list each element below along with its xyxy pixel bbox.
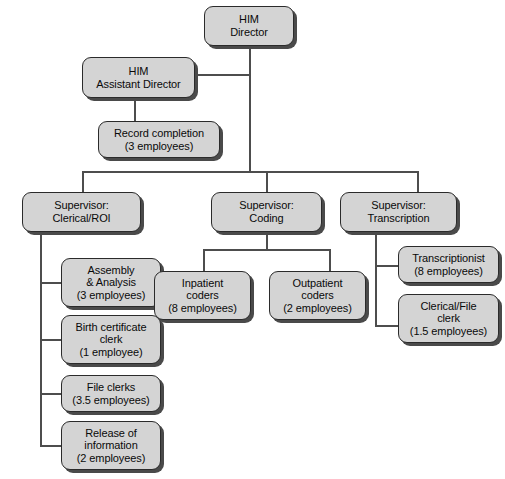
node-birth-certificate-clerk[interactable]: Birth certificate clerk (1 employee)	[61, 315, 161, 364]
connector-assistant-to-record	[134, 98, 136, 122]
connector-coding-bus	[203, 249, 330, 251]
node-label: Inpatient coders (8 employees)	[158, 277, 247, 315]
node-label: Supervisor: Coding	[215, 199, 318, 224]
node-supervisor-coding[interactable]: Supervisor: Coding	[211, 192, 322, 232]
connector-clerical-stub-release	[40, 445, 62, 447]
connector-clerical-stub-assembly	[40, 282, 62, 284]
connector-bus-to-clerical	[82, 171, 84, 193]
connector-clerical-stub-file	[40, 393, 62, 395]
node-inpatient-coders[interactable]: Inpatient coders (8 employees)	[154, 271, 251, 320]
node-record-completion[interactable]: Record completion (3 employees)	[98, 121, 220, 158]
node-label: Release of information (2 employees)	[65, 427, 157, 465]
node-supervisor-clerical-roi[interactable]: Supervisor: Clerical/ROI	[22, 192, 141, 232]
connector-coding-trunk	[266, 231, 268, 249]
connector-supervisor-bus	[82, 171, 418, 173]
connector-director-to-assistant	[196, 74, 250, 76]
org-chart: HIM Director HIM Assistant Director Reco…	[0, 0, 505, 479]
node-label: Supervisor: Clerical/ROI	[26, 199, 137, 224]
node-him-assistant-director[interactable]: HIM Assistant Director	[82, 57, 195, 98]
connector-transcription-stub-clerical	[375, 325, 399, 327]
connector-coding-to-inpatient	[203, 249, 205, 271]
connector-director-trunk	[249, 45, 251, 171]
connector-transcription-stub-transcriptionist	[375, 265, 399, 267]
connector-clerical-stub-birth	[40, 339, 62, 341]
node-label: Birth certificate clerk (1 employee)	[65, 321, 157, 359]
node-clerical-file-clerk[interactable]: Clerical/File clerk (1.5 employees)	[398, 294, 499, 343]
node-label: Record completion (3 employees)	[102, 127, 216, 152]
node-label: File clerks (3.5 employees)	[65, 381, 157, 406]
connector-transcription-trunk	[375, 231, 377, 326]
connector-bus-to-transcription	[417, 171, 419, 193]
node-label: Clerical/File clerk (1.5 employees)	[402, 300, 495, 338]
node-label: HIM Director	[208, 13, 290, 38]
node-transcriptionist[interactable]: Transcriptionist (8 employees)	[398, 246, 499, 283]
node-supervisor-transcription[interactable]: Supervisor: Transcription	[340, 192, 457, 232]
node-him-director[interactable]: HIM Director	[204, 6, 294, 46]
connector-coding-to-outpatient	[329, 249, 331, 271]
node-label: Outpatient coders (2 employees)	[273, 277, 362, 315]
node-label: Transcriptionist (8 employees)	[402, 252, 495, 277]
node-assembly-analysis[interactable]: Assembly & Analysis (3 employees)	[61, 258, 161, 307]
node-label: HIM Assistant Director	[86, 65, 191, 90]
node-file-clerks[interactable]: File clerks (3.5 employees)	[61, 375, 161, 412]
node-outpatient-coders[interactable]: Outpatient coders (2 employees)	[269, 271, 366, 320]
node-label: Supervisor: Transcription	[344, 199, 453, 224]
connector-bus-to-coding	[266, 171, 268, 193]
node-label: Assembly & Analysis (3 employees)	[65, 264, 157, 302]
node-release-of-information[interactable]: Release of information (2 employees)	[61, 421, 161, 470]
